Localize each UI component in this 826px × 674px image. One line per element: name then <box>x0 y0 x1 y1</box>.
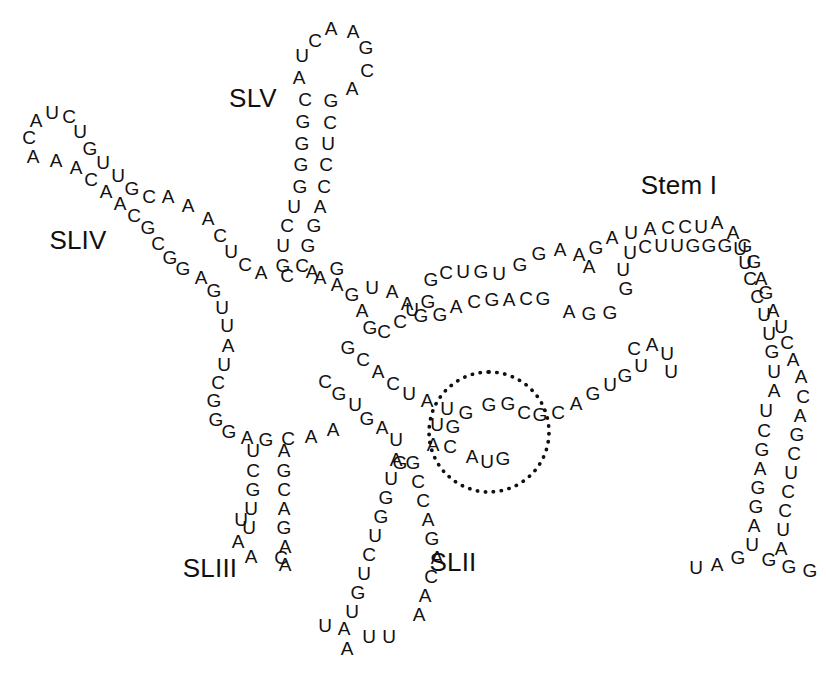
nucleotide-g: G <box>295 134 310 153</box>
nucleotide-u: U <box>776 520 790 539</box>
nucleotide-c: C <box>142 187 156 206</box>
nucleotide-c: C <box>386 374 400 393</box>
nucleotide-u: U <box>664 362 678 381</box>
nucleotide-c: C <box>627 339 641 358</box>
nucleotide-g: G <box>341 338 356 357</box>
nucleotide-a: A <box>768 381 781 400</box>
nucleotide-c: C <box>308 31 322 50</box>
structure-label-slv: SLV <box>229 85 277 111</box>
nucleotide-c: C <box>757 421 771 440</box>
nucleotide-c: C <box>416 491 430 510</box>
nucleotide-g: G <box>425 529 440 548</box>
nucleotide-g: G <box>686 236 701 255</box>
nucleotide-a: A <box>386 282 399 301</box>
nucleotide-c: C <box>317 177 331 196</box>
nucleotide-a: A <box>450 297 463 316</box>
nucleotide-u: U <box>234 510 248 529</box>
nucleotide-u: U <box>321 134 335 153</box>
nucleotide-g: G <box>374 507 389 526</box>
nucleotide-u: U <box>745 535 759 554</box>
nucleotide-g: G <box>379 488 394 507</box>
nucleotide-g: G <box>222 422 237 441</box>
nucleotide-u: U <box>670 236 684 255</box>
nucleotide-u: U <box>784 463 798 482</box>
nucleotide-u: U <box>480 452 494 471</box>
nucleotide-g: G <box>324 91 339 110</box>
nucleotide-a: A <box>346 79 359 98</box>
nucleotide-g: G <box>533 405 548 424</box>
nucleotide-a: A <box>794 406 807 425</box>
nucleotide-c: C <box>377 322 391 341</box>
nucleotide-a: A <box>278 441 291 460</box>
nucleotide-g: G <box>351 583 366 602</box>
nucleotide-a: A <box>331 275 344 294</box>
nucleotide-u: U <box>318 616 332 635</box>
nucleotide-g: G <box>762 550 777 569</box>
nucleotide-a: A <box>255 263 268 282</box>
nucleotide-c: C <box>517 403 531 422</box>
structure-label-sliv: SLIV <box>49 227 106 253</box>
nucleotide-g: G <box>532 244 547 263</box>
nucleotide-g: G <box>406 453 421 472</box>
nucleotide-u: U <box>362 627 376 646</box>
nucleotide-a: A <box>419 586 432 605</box>
nucleotide-u: U <box>623 243 637 262</box>
nucleotide-c: C <box>638 237 652 256</box>
nucleotide-u: U <box>759 401 773 420</box>
nucleotide-g: G <box>296 112 311 131</box>
nucleotide-c: C <box>360 61 374 80</box>
nucleotide-u: U <box>694 217 708 236</box>
nucleotide-g: G <box>751 478 766 497</box>
nucleotide-c: C <box>298 90 312 109</box>
nucleotide-a: A <box>646 335 659 354</box>
nucleotide-c: C <box>787 444 801 463</box>
nucleotide-g: G <box>765 342 780 361</box>
nucleotide-g: G <box>433 305 448 324</box>
nucleotide-u: U <box>45 103 59 122</box>
nucleotide-a: A <box>100 182 113 201</box>
nucleotide-u: U <box>295 46 309 65</box>
nucleotide-a: A <box>563 302 576 321</box>
nucleotide-a: A <box>503 290 516 309</box>
nucleotide-g: G <box>718 236 733 255</box>
nucleotide-u: U <box>492 264 506 283</box>
nucleotide-u: U <box>389 430 403 449</box>
nucleotide-a: A <box>327 420 340 439</box>
structure-label-stem1: Stem I <box>641 172 717 198</box>
nucleotide-u: U <box>624 223 638 242</box>
nucleotide-c: C <box>277 480 291 499</box>
nucleotide-g: G <box>501 394 516 413</box>
nucleotide-g: G <box>803 561 818 580</box>
nucleotide-c: C <box>319 155 333 174</box>
nucleotide-u: U <box>402 384 416 403</box>
nucleotide-g: G <box>293 177 308 196</box>
nucleotide-a: A <box>376 418 389 437</box>
nucleotide-a: A <box>314 197 327 216</box>
nucleotide-a: A <box>466 447 479 466</box>
nucleotide-g: G <box>246 480 261 499</box>
nucleotide-a: A <box>421 391 434 410</box>
nucleotide-u: U <box>357 564 371 583</box>
nucleotide-a: A <box>222 336 235 355</box>
nucleotide-c: C <box>443 437 457 456</box>
nucleotide-a: A <box>372 362 385 381</box>
nucleotide-g: G <box>749 497 764 516</box>
nucleotide-g: G <box>755 440 770 459</box>
nucleotide-a: A <box>711 555 724 574</box>
nucleotide-g: G <box>589 238 604 257</box>
nucleotide-a: A <box>606 228 619 247</box>
nucleotide-u: U <box>365 278 379 297</box>
nucleotide-u: U <box>603 375 617 394</box>
nucleotide-g: G <box>536 289 551 308</box>
nucleotide-a: A <box>305 427 318 446</box>
nucleotide-c: C <box>323 113 337 132</box>
nucleotide-a: A <box>27 147 40 166</box>
nucleotide-g: G <box>276 256 291 275</box>
nucleotide-a: A <box>754 459 767 478</box>
nucleotide-a: A <box>245 547 258 566</box>
nucleotide-g: G <box>176 259 191 278</box>
nucleotide-g: G <box>125 179 140 198</box>
nucleotide-c: C <box>551 403 565 422</box>
nucleotide-c: C <box>84 170 98 189</box>
nucleotide-a: A <box>70 158 83 177</box>
